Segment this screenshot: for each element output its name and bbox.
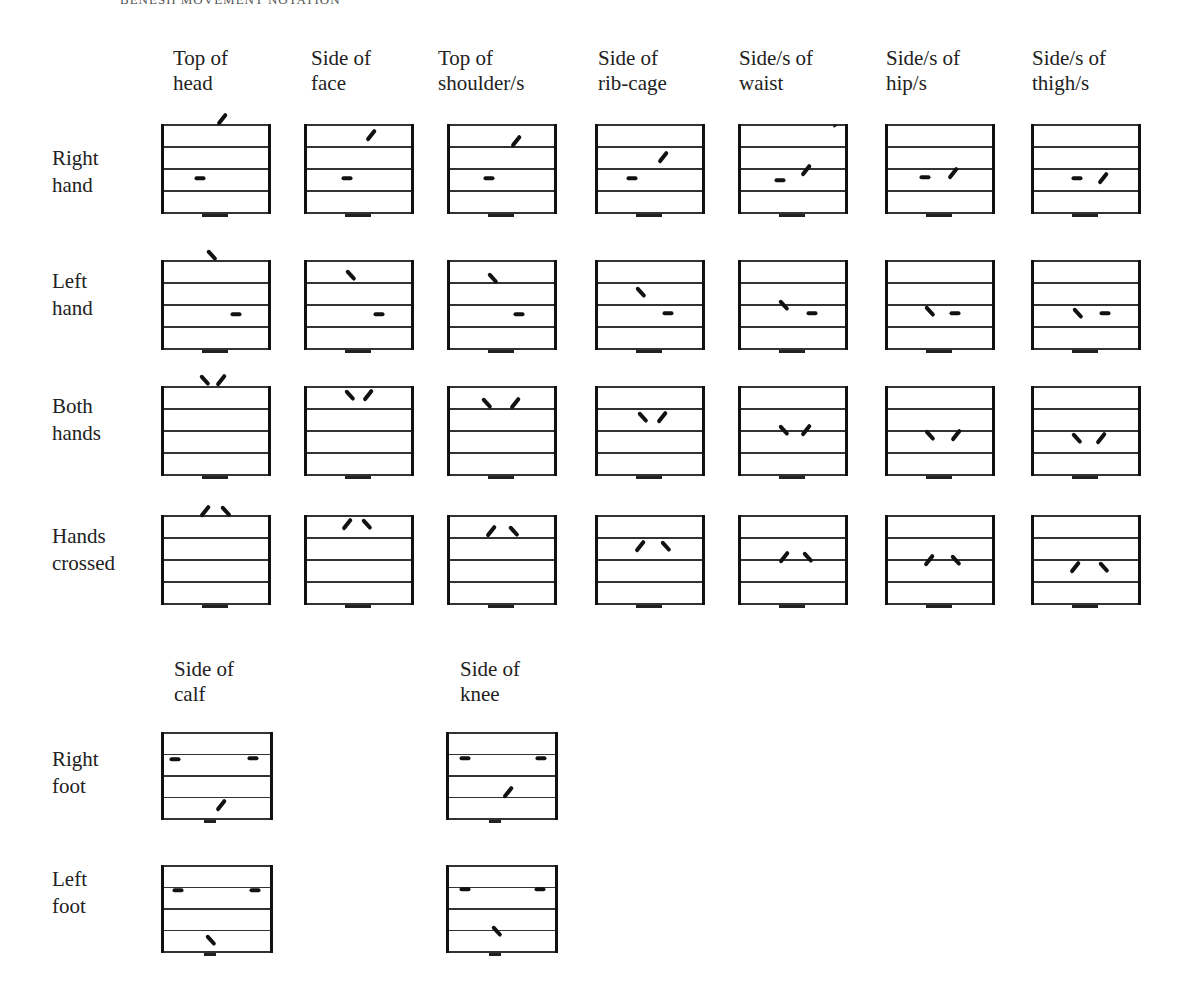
- stave-line: [447, 908, 557, 909]
- stave-barline: [161, 260, 164, 350]
- dash-mark-icon: [663, 311, 674, 315]
- stave-line: [886, 559, 994, 560]
- stave-hands-crossed-side-of-face: [305, 516, 413, 604]
- slash-mark-icon: [634, 539, 645, 552]
- backslash-mark-icon: [635, 286, 646, 298]
- stave-barline: [1138, 124, 1141, 214]
- stave-hands-crossed-top-of-shoulder-s: [448, 516, 556, 604]
- stave-barline: [885, 260, 888, 350]
- stave-barline: [270, 865, 273, 953]
- slash-mark-icon: [215, 798, 226, 811]
- stave-line: [1032, 559, 1140, 560]
- stave-line: [596, 537, 704, 538]
- stave-line: [447, 930, 557, 931]
- stave-base-mark: [488, 605, 514, 608]
- backslash-mark-icon: [345, 269, 356, 281]
- stave-line: [596, 124, 704, 125]
- stave-line: [448, 190, 556, 191]
- stave-line: [305, 430, 413, 431]
- backslash-mark-icon: [1071, 432, 1082, 444]
- stave-line: [596, 515, 704, 516]
- stave-line: [596, 581, 704, 582]
- stave-line: [596, 282, 704, 283]
- stave-barline: [446, 732, 449, 820]
- dash-mark-icon: [950, 311, 961, 315]
- stave-line: [162, 386, 270, 387]
- stave-line: [162, 908, 272, 909]
- stave-line: [886, 581, 994, 582]
- stave-line: [305, 124, 413, 125]
- stave-line: [162, 581, 270, 582]
- stave-line: [305, 260, 413, 261]
- backslash-mark-icon: [361, 518, 372, 530]
- stave-line: [1032, 282, 1140, 283]
- stave-barline: [268, 515, 271, 605]
- stave-base-mark: [202, 605, 228, 608]
- backslash-mark-icon: [1072, 307, 1083, 319]
- stave-barline: [270, 732, 273, 820]
- slash-mark-icon: [365, 128, 376, 141]
- stave-line: [162, 146, 270, 147]
- slash-mark-icon: [1095, 431, 1106, 444]
- slash-mark-icon: [215, 373, 226, 386]
- stave-barline: [411, 260, 414, 350]
- stave-barline: [845, 260, 848, 350]
- dash-mark-icon: [536, 756, 547, 760]
- stave-base-mark: [636, 350, 662, 353]
- stave-line: [448, 124, 556, 125]
- stave-line: [162, 124, 270, 125]
- stave-barline: [595, 260, 598, 350]
- stave-line: [886, 190, 994, 191]
- stave-barline: [447, 260, 450, 350]
- stave-base-mark: [1072, 605, 1098, 608]
- stave-base-mark: [202, 476, 228, 479]
- stave-left-hand-side-of-face: [305, 261, 413, 349]
- stave-right-hand-side-s-of-thigh-s: [1032, 125, 1140, 213]
- stave-line: [1032, 537, 1140, 538]
- stave-base-mark: [488, 214, 514, 217]
- dash-mark-icon: [807, 311, 818, 315]
- column-header-side-s-of-waist: Side/s of waist: [739, 46, 813, 96]
- stave-line: [448, 581, 556, 582]
- stave-barline: [1138, 386, 1141, 476]
- stave-line: [1032, 581, 1140, 582]
- stave-barline: [702, 260, 705, 350]
- stave-line: [305, 452, 413, 453]
- backslash-mark-icon: [205, 934, 216, 946]
- column-header-side-s-of-hip-s: Side/s of hip/s: [886, 46, 960, 96]
- stave-line: [886, 282, 994, 283]
- stave-line: [448, 559, 556, 560]
- stave-line: [162, 190, 270, 191]
- stave-line: [596, 386, 704, 387]
- stave-barline: [992, 515, 995, 605]
- stave-line: [162, 430, 270, 431]
- stave-line: [886, 304, 994, 305]
- stave-left-hand-top-of-head: [162, 261, 270, 349]
- stave-line: [447, 754, 557, 755]
- stave-barline: [304, 260, 307, 350]
- stave-both-hands-side-s-of-waist: [739, 387, 847, 475]
- stave-line: [162, 559, 270, 560]
- stave-barline: [304, 386, 307, 476]
- stave-line: [447, 775, 557, 776]
- stave-line: [162, 537, 270, 538]
- dash-mark-icon: [460, 887, 471, 891]
- stave-base-mark: [779, 350, 805, 353]
- dash-mark-icon: [1100, 311, 1111, 315]
- stave-line: [886, 515, 994, 516]
- stave-hands-crossed-top-of-head: [162, 516, 270, 604]
- dash-mark-icon: [195, 176, 206, 180]
- stave-line: [886, 124, 994, 125]
- stave-line: [448, 304, 556, 305]
- stave-line: [162, 754, 272, 755]
- stave-line: [886, 146, 994, 147]
- stave-line: [162, 168, 270, 169]
- stave-barline: [702, 386, 705, 476]
- stave-line: [162, 304, 270, 305]
- stave-right-hand-top-of-head: [162, 125, 270, 213]
- stave-barline: [1031, 386, 1034, 476]
- stave-barline: [1138, 515, 1141, 605]
- stave-base-mark: [204, 820, 216, 824]
- row-label-left-foot: Left foot: [52, 866, 87, 920]
- slash-mark-icon: [656, 410, 667, 423]
